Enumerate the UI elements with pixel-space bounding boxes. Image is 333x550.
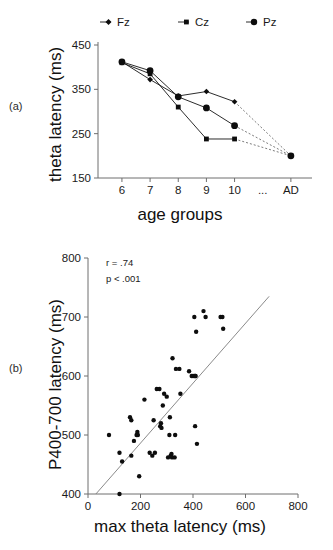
- panel-a-ylabel: theta latency (ms): [46, 47, 66, 182]
- data-point: [120, 459, 124, 463]
- data-point: [159, 426, 163, 430]
- panel-a-x-tick-label: AD: [283, 184, 299, 196]
- panel-b-xlabel: max theta latency (ms): [30, 517, 330, 537]
- data-point: [204, 137, 209, 142]
- data-point: [142, 397, 146, 401]
- data-point: [203, 105, 210, 112]
- data-point: [136, 433, 140, 437]
- data-point: [187, 369, 191, 373]
- panel-a-x-tick-label: ...: [258, 184, 268, 196]
- data-point: [159, 421, 163, 425]
- panel-b-annotation-0: r = .74: [106, 257, 133, 268]
- data-point: [287, 152, 294, 159]
- legend-label-pz: Pz: [263, 16, 277, 28]
- data-point: [221, 327, 225, 331]
- panel-a-series-pz: [119, 58, 295, 159]
- panel-a-xlabel: age groups: [40, 205, 320, 225]
- data-point: [177, 367, 181, 371]
- data-point: [137, 474, 141, 478]
- data-point: [119, 58, 126, 65]
- data-point: [157, 387, 161, 391]
- data-point: [232, 99, 238, 105]
- data-point: [195, 442, 199, 446]
- panel-b-y-tick-label: 800: [62, 252, 81, 264]
- panel-a-x-tick-label: 10: [228, 184, 241, 196]
- data-point: [165, 394, 169, 398]
- data-point: [161, 403, 165, 407]
- series-path-solid: [122, 63, 235, 139]
- data-point: [117, 492, 121, 496]
- legend-marker-pz: [251, 19, 257, 25]
- data-point: [231, 122, 238, 129]
- data-point: [201, 309, 205, 313]
- data-point: [129, 453, 133, 457]
- data-point: [167, 433, 171, 437]
- panel-b-x-tick-label: 400: [183, 500, 202, 512]
- data-point: [203, 315, 207, 319]
- series-path-dashed: [235, 126, 291, 156]
- panel-a-x-tick-label: 7: [147, 184, 153, 196]
- data-point: [193, 374, 197, 378]
- panel-a-label: (a): [9, 100, 22, 112]
- panel-a-x-tick-label: 6: [119, 184, 125, 196]
- data-point: [107, 433, 111, 437]
- data-point: [220, 315, 224, 319]
- panel-a-y-tick-label: 150: [72, 172, 91, 184]
- legend-label-cz: Cz: [195, 16, 209, 28]
- data-point: [153, 451, 157, 455]
- data-point: [168, 415, 172, 419]
- data-point: [175, 93, 182, 100]
- panel-b-x-tick-label: 800: [288, 500, 307, 512]
- data-point: [147, 77, 153, 83]
- panel-b-y-tick-label: 400: [62, 488, 81, 500]
- data-point: [132, 439, 136, 443]
- figure-root: (a) theta latency (ms) age groups FzCzPz…: [0, 0, 333, 550]
- panel-b-x-tick-label: 0: [85, 500, 91, 512]
- data-point: [170, 356, 174, 360]
- legend-label-fz: Fz: [117, 16, 130, 28]
- panel-b-x-tick-label: 600: [236, 500, 255, 512]
- series-path-dashed: [235, 139, 291, 156]
- data-point: [172, 455, 176, 459]
- legend-marker-cz: [184, 20, 189, 25]
- legend-marker-fz: [106, 19, 112, 25]
- data-point: [194, 330, 198, 334]
- panel-b-points: [107, 309, 226, 496]
- panel-b-label: (b): [9, 362, 22, 374]
- regression-line: [96, 296, 269, 494]
- data-point: [173, 433, 177, 437]
- panel-b-annotation-1: p < .001: [106, 273, 141, 284]
- data-point: [129, 418, 133, 422]
- panel-a-y-tick-label: 350: [72, 83, 91, 95]
- data-point: [176, 105, 181, 110]
- data-point: [151, 418, 155, 422]
- data-point: [232, 137, 237, 142]
- panel-a-x-tick-label: 9: [203, 184, 209, 196]
- data-point: [117, 451, 121, 455]
- data-point: [147, 67, 154, 74]
- panel-a: (a) theta latency (ms) age groups FzCzPz…: [0, 0, 333, 240]
- panel-b-ylabel: P400-700 latency (ms): [46, 299, 66, 470]
- data-point: [204, 89, 210, 95]
- panel-a-x-tick-label: 8: [175, 184, 181, 196]
- panel-b-x-tick-label: 200: [131, 500, 150, 512]
- panel-a-y-tick-label: 450: [72, 39, 91, 51]
- data-point: [192, 315, 196, 319]
- data-point: [193, 424, 197, 428]
- panel-a-y-tick-label: 250: [72, 128, 91, 140]
- panel-b: (b) P400-700 latency (ms) max theta late…: [0, 240, 333, 550]
- data-point: [178, 392, 182, 396]
